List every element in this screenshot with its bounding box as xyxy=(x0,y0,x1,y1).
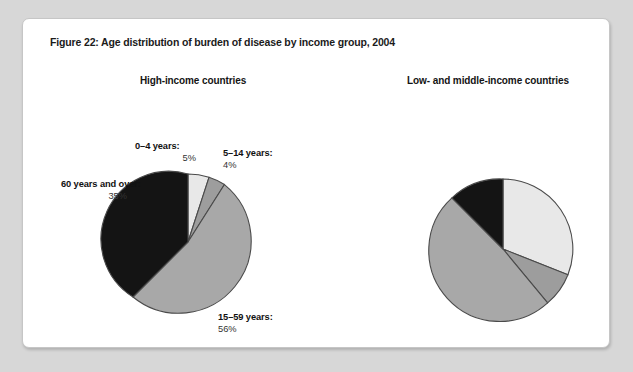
label-5-14-years-high-income: 5–14 years: 4% xyxy=(223,147,273,172)
label-percent: 56% xyxy=(218,323,273,335)
label-category: 5–14 years: xyxy=(223,147,273,159)
pie-chart-low-middle-income xyxy=(411,157,595,341)
figure-panel: Figure 22: Age distribution of burden of… xyxy=(22,18,610,348)
label-60-years-and-over-high-income: 60 years and over: 35% xyxy=(61,178,127,203)
label-category: 15–59 years: xyxy=(218,311,273,323)
chart-high-income: High-income countries 0–4 years: 5% 5–14… xyxy=(23,19,363,347)
chart-title-high-income: High-income countries xyxy=(23,75,363,86)
label-percent: 35% xyxy=(61,190,127,202)
chart-low-middle-income: Low- and middle-income countries 0–4 yea… xyxy=(343,19,633,347)
label-0-4-years-high-income: 0–4 years: 5% xyxy=(135,140,209,165)
label-percent: 5% xyxy=(135,152,209,164)
label-category: 60 years and over: xyxy=(61,178,127,190)
label-percent: 4% xyxy=(223,159,273,171)
label-category: 0–4 years: xyxy=(135,140,209,152)
chart-title-low-middle-income: Low- and middle-income countries xyxy=(343,75,633,86)
label-15-59-years-high-income: 15–59 years: 56% xyxy=(218,311,273,336)
